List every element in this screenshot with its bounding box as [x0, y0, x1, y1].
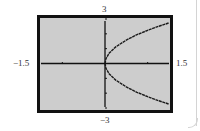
calculator-screen	[0, 0, 200, 131]
